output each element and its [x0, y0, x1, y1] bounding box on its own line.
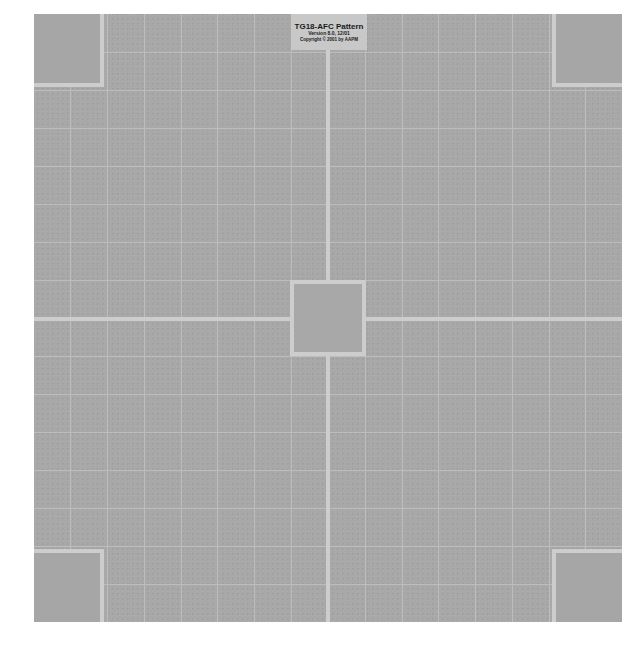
corner-square-bottom-left	[34, 549, 104, 622]
center-cross-line-left	[34, 317, 292, 321]
corner-square-top-left	[34, 14, 104, 87]
corner-square-top-right	[552, 14, 622, 87]
pattern-copyright: Copyright © 2001 by AAPM	[300, 37, 358, 42]
center-cross-line-right	[364, 317, 622, 321]
tg18-afc-pattern: TG18-AFC Pattern Version 8.0, 12/01 Copy…	[34, 14, 622, 622]
pattern-label: TG18-AFC Pattern Version 8.0, 12/01 Copy…	[291, 14, 367, 50]
center-cross-line-bottom	[326, 354, 330, 622]
center-cross-line-top	[326, 50, 330, 282]
corner-square-bottom-right	[552, 549, 622, 622]
center-square	[290, 280, 366, 356]
